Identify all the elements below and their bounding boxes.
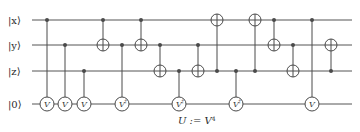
wire-label-z: |z⟩ <box>8 66 21 78</box>
gate-g5-controlled-v[interactable]: V† <box>115 43 129 111</box>
wire-x: |x⟩ <box>8 15 352 27</box>
control-dot[interactable] <box>215 69 219 73</box>
control-dot[interactable] <box>253 69 257 73</box>
wire-label-x: |x⟩ <box>8 15 21 27</box>
control-dot[interactable] <box>45 18 49 22</box>
gate-g12-cnot[interactable] <box>249 14 261 73</box>
gate-g9-cnot[interactable] <box>192 43 204 77</box>
control-dot[interactable] <box>234 69 238 73</box>
gate-g13-cnot[interactable] <box>268 18 280 51</box>
gate-g16-cnot[interactable] <box>325 39 337 73</box>
control-dot[interactable] <box>139 18 143 22</box>
control-dot[interactable] <box>63 43 67 47</box>
gate-g6-cnot[interactable] <box>135 18 147 51</box>
control-dot[interactable] <box>196 43 200 47</box>
control-dot[interactable] <box>310 18 314 22</box>
control-dot[interactable] <box>82 69 86 73</box>
control-dot[interactable] <box>120 43 124 47</box>
wire-label-anc: |0⟩ <box>8 99 22 111</box>
control-dot[interactable] <box>329 69 333 73</box>
caption: U := V4 <box>178 115 216 127</box>
gate-g4-cnot[interactable] <box>97 18 109 51</box>
caption-text: U := V4 <box>178 115 216 127</box>
control-dot[interactable] <box>101 18 105 22</box>
circuit-canvas: |x⟩|y⟩|z⟩|0⟩VVVV†V†V†VU := V4 <box>0 0 360 132</box>
gate-g11-controlled-v[interactable]: V† <box>229 69 243 111</box>
caption-main: U := V <box>178 115 214 126</box>
gate-g1-controlled-v[interactable]: V <box>40 18 54 111</box>
control-dot[interactable] <box>177 69 181 73</box>
quantum-circuit-figure: |x⟩|y⟩|z⟩|0⟩VVVV†V†V†VU := V4 <box>0 0 360 132</box>
gate-g8-controlled-v[interactable]: V† <box>172 69 186 111</box>
gate-g3-controlled-v[interactable]: V <box>77 69 91 111</box>
gate-g14-cnot[interactable] <box>287 43 299 77</box>
wire-label-y: |y⟩ <box>8 40 21 52</box>
caption-superscript: 4 <box>212 115 216 122</box>
gate-g10-cnot[interactable] <box>211 14 223 73</box>
control-dot[interactable] <box>158 43 162 47</box>
control-dot[interactable] <box>272 18 276 22</box>
gate-g15-controlled-v[interactable]: V <box>305 18 319 111</box>
wire-y: |y⟩ <box>8 40 352 52</box>
control-dot[interactable] <box>291 43 295 47</box>
gate-g7-cnot[interactable] <box>154 43 166 77</box>
gate-g2-controlled-v[interactable]: V <box>58 43 72 111</box>
